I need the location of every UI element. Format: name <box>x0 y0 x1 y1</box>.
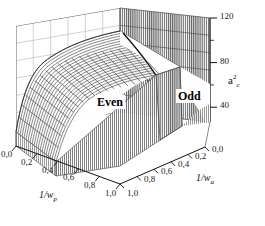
region-label-odd: Odd <box>176 89 203 103</box>
z-axis-title-sub: c <box>236 81 239 89</box>
z-axis <box>210 18 217 122</box>
x-axis-title-main: 1/w <box>39 189 53 200</box>
x-tick-label-3: 0,6 <box>63 173 74 182</box>
x-tick-label-5: 1,0 <box>105 189 116 198</box>
y-tick-label-4: 0,8 <box>144 175 155 184</box>
z-tick-label-120: 120 <box>220 12 234 21</box>
y-axis-title-sub: a <box>210 178 214 186</box>
y-axis-title: 1/wa <box>196 173 214 186</box>
y-tick-label-0: 0,0 <box>212 145 223 154</box>
x-axis-title-sub: p <box>53 195 57 203</box>
x-tick-label-2: 0,4 <box>42 166 53 175</box>
region-label-even: Even <box>95 95 125 109</box>
x-axis-title: 1/wp <box>39 190 57 203</box>
y-axis-title-main: 1/w <box>196 172 210 183</box>
y-tick-label-3: 0,6 <box>161 167 172 176</box>
x-tick-label-4: 0,8 <box>84 181 95 190</box>
z-tick-label-80: 80 <box>220 57 229 66</box>
y-tick-label-5: 1,0 <box>127 189 138 198</box>
z-tick-label-40: 40 <box>220 101 229 110</box>
x-tick-label-1: 0,2 <box>21 158 32 167</box>
z-axis-title-sup: 2 <box>233 73 237 81</box>
y-tick-label-1: 0,2 <box>195 152 206 161</box>
z-axis-title: a2c <box>228 74 240 89</box>
y-tick-label-2: 0,4 <box>178 160 189 169</box>
x-tick-label-0: 0,0 <box>1 150 12 159</box>
surface-plot-figure: 120 80 40 a2c 0,0 0,2 0,4 0,6 0,8 1,0 1/… <box>0 0 265 226</box>
